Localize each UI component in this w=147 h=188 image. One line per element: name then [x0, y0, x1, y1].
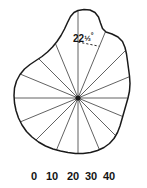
radial-ray	[36, 98, 78, 140]
angle-value: 22	[73, 33, 84, 44]
figure-root: FIGURE 4-1. MEASUREMENT 22½° 010203040	[0, 0, 147, 188]
scale-tick-label: 40	[103, 170, 115, 183]
radial-rays-group	[14, 11, 129, 154]
radial-ray	[39, 59, 78, 98]
scale-tick-label: 0	[31, 170, 37, 183]
angle-label: 22½°	[73, 30, 94, 44]
radial-ray	[78, 50, 126, 98]
degree-symbol: °	[91, 32, 94, 39]
radial-ray	[78, 98, 116, 136]
scale-tick-label: 20	[67, 170, 79, 183]
angle-fraction: ½	[84, 34, 91, 43]
scale-bar: 010203040	[0, 170, 147, 186]
area-outline	[14, 10, 130, 154]
area-diagram	[0, 0, 147, 188]
scale-tick-label: 10	[46, 170, 58, 183]
center-point	[75, 95, 80, 100]
scale-tick-label: 30	[85, 170, 97, 183]
